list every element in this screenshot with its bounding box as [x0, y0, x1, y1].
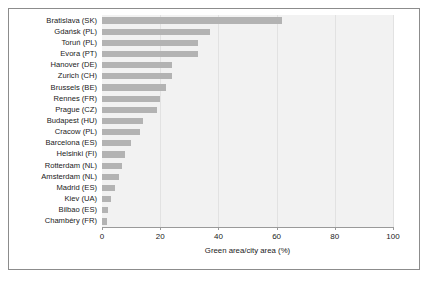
category-label: Gdańsk (PL) — [9, 28, 97, 36]
bar — [102, 29, 210, 35]
grid-line — [160, 15, 161, 227]
x-axis-line — [102, 227, 393, 228]
bar — [102, 185, 115, 191]
bar — [102, 118, 143, 124]
category-label: Barcelona (ES) — [9, 139, 97, 147]
category-label: Hanover (DE) — [9, 61, 97, 69]
bar — [102, 51, 198, 57]
x-tick — [335, 227, 336, 230]
bar — [102, 163, 122, 169]
grid-line — [393, 15, 394, 227]
category-label: Kiev (UA) — [9, 195, 97, 203]
category-label: Budapest (HU) — [9, 117, 97, 125]
category-label: Bratislava (SK) — [9, 17, 97, 25]
category-label: Toruń (PL) — [9, 39, 97, 47]
bar — [102, 17, 282, 23]
bar — [102, 207, 108, 213]
x-tick — [218, 227, 219, 230]
x-tick-label: 80 — [315, 233, 355, 241]
plot-wrapper — [102, 15, 401, 227]
grid-line — [218, 15, 219, 227]
category-axis-labels: Bratislava (SK)Gdańsk (PL)Toruń (PL)Evor… — [9, 15, 97, 227]
category-label: Bilbao (ES) — [9, 206, 97, 214]
category-label: Chambéry (FR) — [9, 217, 97, 225]
x-tick-label: 100 — [373, 233, 413, 241]
x-axis-title: Green area/city area (%) — [102, 247, 393, 255]
bar — [102, 196, 111, 202]
category-label: Helsinki (FI) — [9, 150, 97, 158]
category-label: Zurich (CH) — [9, 72, 97, 80]
x-tick — [102, 227, 103, 230]
category-label: Rotterdam (NL) — [9, 162, 97, 170]
bar — [102, 84, 166, 90]
chart-figure: Bratislava (SK)Gdańsk (PL)Toruń (PL)Evor… — [8, 8, 420, 270]
bar — [102, 107, 157, 113]
bar — [102, 151, 125, 157]
x-tick-label: 0 — [82, 233, 122, 241]
bar — [102, 73, 172, 79]
x-tick-label: 40 — [198, 233, 238, 241]
category-label: Evora (PT) — [9, 50, 97, 58]
category-label: Amsterdam (NL) — [9, 173, 97, 181]
category-label: Prague (CZ) — [9, 106, 97, 114]
category-label: Brussels (BE) — [9, 84, 97, 92]
x-tick-label: 60 — [257, 233, 297, 241]
plot-area — [102, 15, 393, 227]
category-label: Cracow (PL) — [9, 128, 97, 136]
grid-line — [335, 15, 336, 227]
bar — [102, 129, 140, 135]
x-tick — [393, 227, 394, 230]
category-label: Madrid (ES) — [9, 184, 97, 192]
bar — [102, 174, 119, 180]
category-label: Rennes (FR) — [9, 95, 97, 103]
x-tick-label: 20 — [140, 233, 180, 241]
x-tick — [277, 227, 278, 230]
bar — [102, 40, 198, 46]
x-tick — [160, 227, 161, 230]
bar — [102, 140, 131, 146]
bar — [102, 62, 172, 68]
grid-line — [277, 15, 278, 227]
bar — [102, 96, 160, 102]
bar — [102, 218, 107, 224]
